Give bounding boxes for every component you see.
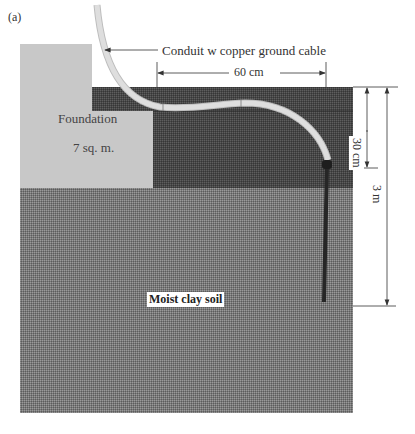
panel-label: (a) — [8, 10, 21, 25]
foundation-area-label: 7 sq. m. — [73, 140, 114, 156]
foundation-label: Foundation — [58, 111, 117, 127]
dimension-30cm: 30 cm — [349, 136, 364, 170]
dimension-3m: 3 m — [369, 183, 384, 205]
rod-clamp — [322, 160, 332, 169]
soil-label: Moist clay soil — [147, 292, 224, 307]
dimension-60cm: 60 cm — [232, 65, 266, 80]
grounding-diagram — [0, 0, 415, 434]
conduit-label: Conduit w copper ground cable — [162, 43, 326, 59]
